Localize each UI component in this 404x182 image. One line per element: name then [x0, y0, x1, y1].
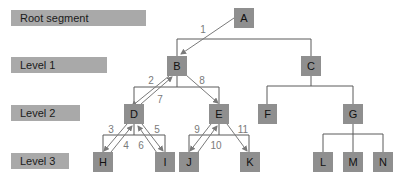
svg-text:F: F [264, 108, 271, 120]
node-d: D [124, 104, 144, 124]
svg-text:H: H [99, 156, 107, 168]
connector-c [267, 76, 353, 104]
svg-text:K: K [246, 156, 254, 168]
svg-text:L: L [320, 156, 326, 168]
step-label: 1 [200, 24, 206, 35]
node-a: A [234, 8, 254, 28]
connector-a [177, 39, 311, 56]
hierarchy-diagram: 1 2 7 8 3 4 5 6 9 10 11 A B C D E F G H … [0, 0, 404, 182]
node-n: N [373, 152, 393, 172]
svg-text:M: M [348, 156, 357, 168]
connector-b [134, 76, 219, 104]
step-label: 4 [123, 140, 129, 151]
node-h: H [93, 152, 113, 172]
svg-text:D: D [130, 108, 138, 120]
node-c: C [301, 56, 321, 76]
step-label: 8 [199, 75, 205, 86]
node-g: G [343, 104, 363, 124]
step-label: 5 [154, 124, 160, 135]
traversal-arrows [104, 18, 247, 153]
step-label: 3 [108, 124, 114, 135]
svg-text:J: J [186, 156, 192, 168]
svg-text:N: N [379, 156, 387, 168]
node-j: J [179, 152, 199, 172]
node-k: K [240, 152, 260, 172]
step-label: 7 [157, 94, 163, 105]
step-label: 2 [148, 75, 154, 86]
step-label: 9 [194, 124, 200, 135]
step-label: 10 [210, 140, 222, 151]
svg-text:C: C [307, 60, 315, 72]
node-f: F [258, 104, 277, 124]
svg-text:E: E [215, 108, 222, 120]
node-b: B [167, 56, 187, 76]
svg-text:G: G [349, 108, 358, 120]
node-m: M [343, 152, 363, 172]
svg-text:B: B [173, 60, 180, 72]
connector-g [323, 124, 383, 152]
svg-text:I: I [163, 156, 166, 168]
arrow-9 [190, 124, 211, 151]
node-i: I [155, 152, 175, 172]
arrow-1 [181, 18, 234, 54]
node-l: L [313, 152, 333, 172]
svg-text:A: A [240, 12, 248, 24]
step-label: 6 [138, 140, 144, 151]
node-e: E [209, 104, 229, 124]
step-label: 11 [238, 124, 249, 135]
